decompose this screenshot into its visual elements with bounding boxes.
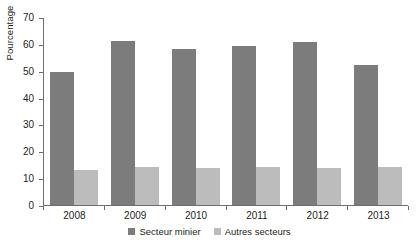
legend-swatch-icon [214,228,221,235]
y-tick-mark [39,18,43,19]
plot-area: 010203040506070 [43,18,408,206]
bar-group [232,18,280,205]
bar-autres-secteurs[interactable] [135,167,159,205]
y-tick-label: 10 [23,174,34,184]
x-axis-labels: 200820092010201120122013 [44,210,409,221]
y-tick-label: 60 [23,40,34,50]
y-axis-title: Pourcentage [4,0,18,126]
bar-secteur-minier[interactable] [354,65,378,205]
y-tick-label: 20 [23,147,34,157]
y-tick-mark [39,152,43,153]
bar-secteur-minier[interactable] [111,41,135,205]
bar-autres-secteurs[interactable] [256,167,280,205]
y-tick-label: 70 [23,13,34,23]
legend-label: Secteur minier [139,226,200,237]
y-tick-mark [39,99,43,100]
x-axis-label: 2008 [44,210,104,221]
y-tick-mark [39,45,43,46]
chart-legend: Secteur minierAutres secteurs [0,226,419,237]
legend-label: Autres secteurs [225,226,291,237]
y-tick-mark [39,179,43,180]
bar-groups [44,18,408,205]
x-axis-label: 2013 [349,210,409,221]
y-tick-mark [39,72,43,73]
bar-group [172,18,220,205]
y-tick-label: 30 [23,120,34,130]
bar-group [293,18,341,205]
bar-secteur-minier[interactable] [293,42,317,205]
legend-item-secteur-minier[interactable]: Secteur minier [128,226,200,237]
y-tick-label: 0 [28,201,34,211]
bar-autres-secteurs[interactable] [317,168,341,205]
legend-item-autres-secteurs[interactable]: Autres secteurs [214,226,291,237]
x-axis-label: 2010 [166,210,226,221]
x-axis-label: 2009 [105,210,165,221]
bar-secteur-minier[interactable] [50,72,74,205]
bar-group [111,18,159,205]
bar-autres-secteurs[interactable] [74,170,98,205]
y-tick-label: 50 [23,67,34,77]
y-tick-mark [39,125,43,126]
legend-swatch-icon [128,228,135,235]
bar-autres-secteurs[interactable] [196,168,220,205]
x-axis-label: 2011 [227,210,287,221]
bar-secteur-minier[interactable] [172,49,196,205]
x-axis-label: 2012 [288,210,348,221]
bar-autres-secteurs[interactable] [378,167,402,205]
bar-group [50,18,98,205]
y-tick-label: 40 [23,94,34,104]
bar-secteur-minier[interactable] [232,46,256,205]
bar-chart: Pourcentage 010203040506070 200820092010… [0,0,419,247]
bar-group [354,18,402,205]
